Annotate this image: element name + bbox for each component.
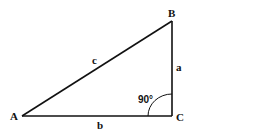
right-angle-label: 90° [138, 94, 153, 105]
side-label-c: c [92, 54, 97, 66]
triangle-diagram: A B C c a b 90° [0, 0, 276, 132]
vertex-label-b: B [168, 7, 176, 19]
vertex-label-c: C [176, 111, 184, 123]
vertex-label-a: A [10, 110, 18, 122]
side-label-a: a [176, 61, 182, 73]
side-label-b: b [97, 119, 103, 131]
